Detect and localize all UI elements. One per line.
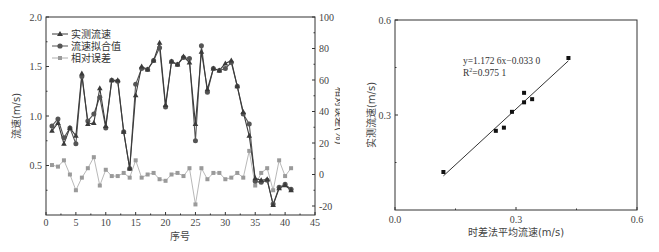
error-point <box>152 171 156 175</box>
error-point <box>289 166 293 170</box>
scatter-point <box>502 126 506 130</box>
fitted-point <box>73 141 78 146</box>
x-tick-label: 45 <box>310 217 320 228</box>
y-tick-label: 1.0 <box>30 111 43 122</box>
error-point <box>199 166 203 170</box>
y-tick-label: 0.3 <box>379 110 392 121</box>
legend: 实测流速 流速拟合值 相对误差 <box>52 28 121 64</box>
error-point <box>187 166 191 170</box>
y-axis-label: 流速(m/s) <box>10 93 22 139</box>
error-point <box>241 176 245 180</box>
measured-point <box>205 86 211 91</box>
scatter-point <box>530 97 534 101</box>
measured-point <box>103 123 109 128</box>
right-y-axis-label: 实测流速(m/s) <box>365 82 377 148</box>
error-point <box>247 149 251 153</box>
measured-point <box>133 92 139 97</box>
x-axis-label: 序号 <box>170 230 190 242</box>
error-point <box>181 174 185 178</box>
error-point <box>176 171 180 175</box>
fitted-point <box>61 135 66 140</box>
legend-error: 相对误差 <box>71 52 111 64</box>
x-tick-label: 5 <box>73 217 78 228</box>
error-point <box>170 173 174 177</box>
error-point <box>235 171 239 175</box>
scatter-point <box>522 100 526 104</box>
fitted-point <box>97 95 102 100</box>
legend-fitted: 流速拟合值 <box>71 40 121 52</box>
error-point <box>116 174 120 178</box>
measured-point <box>79 70 85 75</box>
scatter-plot-frame <box>395 20 637 210</box>
x-tick-label: 35 <box>250 217 260 228</box>
measured-point <box>91 120 97 125</box>
measured-point <box>139 64 145 69</box>
y2-tick-label: -20 <box>319 201 332 212</box>
left-chart: 0510152025303540450.51.01.52.0-200204060… <box>0 0 340 252</box>
y2-tick-label: 0 <box>319 169 324 180</box>
error-point <box>271 188 275 192</box>
y-tick-label: 0.6 <box>379 15 392 26</box>
y2-tick-label: 40 <box>319 106 329 117</box>
scatter-point <box>510 110 514 114</box>
measured-point <box>193 121 199 126</box>
y2-tick-label: 60 <box>319 75 329 86</box>
error-point <box>110 174 114 178</box>
measured-point <box>163 102 169 107</box>
error-point <box>98 184 102 188</box>
scatter-point <box>494 129 498 133</box>
y2-tick-label: 100 <box>319 12 334 23</box>
error-point <box>217 171 221 175</box>
y2-tick-label: 80 <box>319 43 329 54</box>
error-point <box>134 158 138 162</box>
x-tick-label: 0.6 <box>631 214 644 225</box>
x-tick-label: 10 <box>101 217 111 228</box>
x-tick-label: 0 <box>44 217 49 228</box>
measured-point <box>199 49 205 54</box>
error-point <box>92 155 96 159</box>
x-tick-label: 15 <box>131 217 141 228</box>
y2-tick-label: 20 <box>319 138 329 149</box>
error-point <box>80 176 84 180</box>
y-tick-label: 0.5 <box>30 160 43 171</box>
circle-marker-icon <box>57 43 62 48</box>
error-point <box>128 176 132 180</box>
error-point <box>74 188 78 192</box>
error-point <box>158 177 162 181</box>
error-point <box>146 173 150 177</box>
measured-point <box>240 109 246 114</box>
regression-equation: y=1.172 6x−0.033 0 <box>463 56 540 66</box>
x-tick-label: 0.0 <box>389 214 402 225</box>
scatter-point <box>566 56 570 60</box>
fitted-point <box>199 43 204 48</box>
right-x-axis-label: 时差法平均流速(m/s) <box>468 226 564 238</box>
y2-axis-label: 相对误差(%) <box>334 87 340 144</box>
fitted-point <box>49 123 54 128</box>
error-point <box>277 158 281 162</box>
error-point <box>193 202 197 206</box>
error-point <box>62 158 66 162</box>
error-point <box>122 171 126 175</box>
r-squared: R2=0.975 1 <box>463 67 506 78</box>
legend-measured: 实测流速 <box>71 28 111 40</box>
y-tick-label: 2.0 <box>30 12 43 23</box>
error-point <box>283 174 287 178</box>
error-point <box>211 171 215 175</box>
x-tick-label: 30 <box>220 217 230 228</box>
regression-line <box>443 61 568 176</box>
fitted-point <box>91 112 96 117</box>
scatter-point <box>441 170 445 174</box>
error-point <box>253 184 257 188</box>
fitted-point <box>193 138 198 143</box>
fitted-point <box>133 82 138 87</box>
error-point <box>140 176 144 180</box>
measured-point <box>229 58 235 63</box>
fitted-point <box>157 45 162 50</box>
x-tick-label: 20 <box>161 217 171 228</box>
fitted-point <box>223 66 228 71</box>
error-point <box>86 166 90 170</box>
error-point <box>104 168 108 172</box>
x-tick-label: 0.3 <box>510 214 523 225</box>
error-point <box>259 171 263 175</box>
error-point <box>56 165 60 169</box>
